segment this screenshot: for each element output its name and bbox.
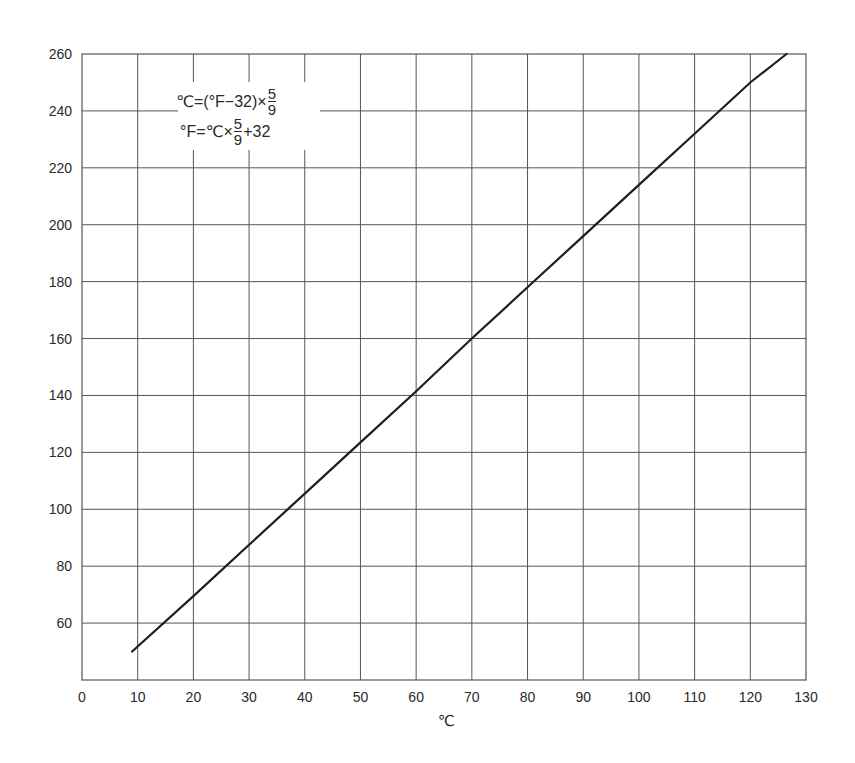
formula-fahrenheit: °F=℃× 5 9 +32 (180, 116, 270, 147)
fraction-5-9: 5 9 (268, 86, 276, 117)
y-tick-label: 80 (56, 558, 72, 574)
y-tick-label: 180 (49, 274, 73, 290)
x-tick-label: 130 (794, 689, 818, 705)
x-tick-label: 40 (297, 689, 313, 705)
x-axis-tick-labels: 0102030405060708090100110120130 (78, 689, 818, 705)
fraction-denominator: 9 (234, 132, 242, 147)
y-tick-label: 120 (49, 444, 73, 460)
x-tick-label: 0 (78, 689, 86, 705)
x-tick-label: 90 (575, 689, 591, 705)
fraction-numerator: 5 (268, 86, 276, 102)
fraction-5-9: 5 9 (234, 116, 242, 147)
fraction-numerator: 5 (234, 116, 242, 132)
fraction-denominator: 9 (268, 102, 276, 117)
chart-canvas: 0102030405060708090100110120130 60801001… (0, 0, 855, 763)
y-axis-tick-labels: 6080100120140160180200220240260 (49, 46, 73, 631)
x-axis-label: ℃ (438, 712, 455, 730)
x-tick-label: 70 (464, 689, 480, 705)
y-tick-label: 260 (49, 46, 73, 62)
x-tick-label: 20 (186, 689, 202, 705)
x-tick-label: 80 (520, 689, 536, 705)
formula-2-lhs: °F=℃× (180, 122, 233, 141)
horizontal-gridlines (82, 111, 806, 623)
formula-2-rhs: +32 (243, 123, 270, 141)
x-tick-label: 10 (130, 689, 146, 705)
formula-celsius: ℃=(°F−32)× 5 9 (176, 86, 277, 117)
x-tick-label: 110 (683, 689, 706, 705)
x-tick-label: 60 (408, 689, 424, 705)
x-tick-label: 50 (353, 689, 369, 705)
x-tick-label: 30 (241, 689, 257, 705)
x-tick-label: 100 (627, 689, 651, 705)
y-tick-label: 60 (56, 615, 72, 631)
y-tick-label: 240 (49, 103, 73, 119)
x-tick-label: 120 (739, 689, 763, 705)
y-tick-label: 200 (49, 217, 73, 233)
y-tick-label: 160 (49, 331, 73, 347)
y-tick-label: 140 (49, 387, 73, 403)
y-tick-label: 100 (49, 501, 73, 517)
y-tick-label: 220 (49, 160, 73, 176)
formula-1-lhs: ℃=(°F−32)× (176, 92, 267, 111)
